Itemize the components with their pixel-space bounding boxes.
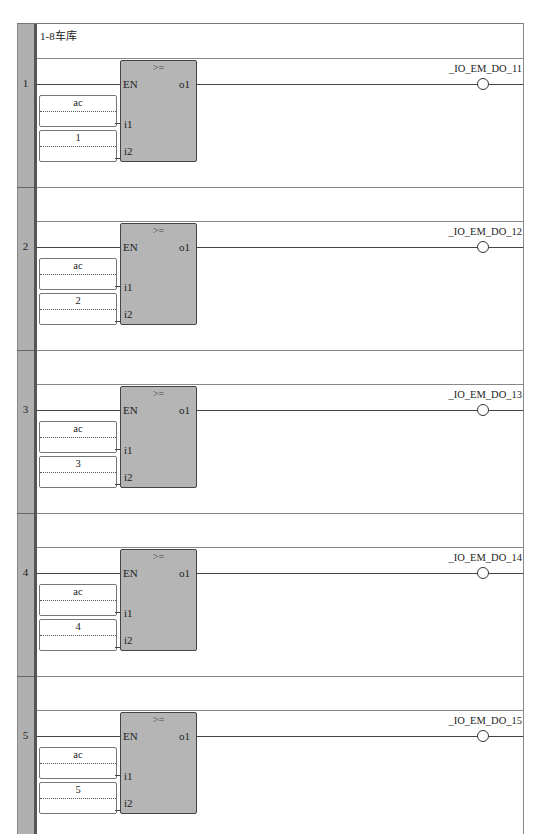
- coil-address: _IO_EM_DO_13: [449, 389, 523, 400]
- coil-wire: [489, 573, 523, 574]
- i1-connector: [115, 123, 121, 124]
- coil-address: _IO_EM_DO_12: [449, 226, 523, 237]
- block-operator: >=: [121, 714, 196, 725]
- en-wire: [37, 84, 120, 85]
- dotted-separator: [40, 763, 116, 764]
- pin-i2: i2: [124, 145, 133, 157]
- pin-i1: i1: [124, 770, 133, 782]
- dotted-separator: [40, 635, 116, 636]
- coil-wire: [489, 736, 523, 737]
- constant-box[interactable]: 5: [39, 782, 117, 814]
- compare-ge-block[interactable]: >= EN o1 i1 i2: [120, 223, 197, 325]
- variable-name: ac: [40, 749, 116, 760]
- pin-en: EN: [123, 78, 138, 90]
- i2-connector: [115, 321, 121, 322]
- pin-i1: i1: [124, 281, 133, 293]
- pin-i2: i2: [124, 308, 133, 320]
- rung-3[interactable]: 3 >= EN o1 i1 i2 ac 3 _IO_EM_DO_13: [0, 410, 542, 573]
- rung-number: 1: [17, 77, 34, 89]
- coil-address: _IO_EM_DO_11: [449, 63, 522, 74]
- rung-number: 4: [17, 566, 34, 578]
- input-variable-box[interactable]: ac: [39, 95, 117, 127]
- divider: [37, 710, 523, 711]
- rung-1[interactable]: 1 >= EN o1 i1 i2 ac 1 _IO_EM_DO_11: [0, 84, 542, 247]
- constant-box[interactable]: 1: [39, 130, 117, 162]
- divider: [37, 547, 523, 548]
- output-wire: [197, 410, 477, 411]
- output-coil-icon[interactable]: [477, 730, 489, 742]
- coil-address: _IO_EM_DO_14: [449, 552, 523, 563]
- output-coil-icon[interactable]: [477, 567, 489, 579]
- rung-number: 3: [17, 403, 34, 415]
- rung-number: 2: [17, 240, 34, 252]
- constant-box[interactable]: 3: [39, 456, 117, 488]
- pin-i2: i2: [124, 634, 133, 646]
- divider: [37, 384, 523, 385]
- constant-box[interactable]: 2: [39, 293, 117, 325]
- input-variable-box[interactable]: ac: [39, 421, 117, 453]
- pin-o1: o1: [179, 730, 190, 742]
- pin-o1: o1: [179, 567, 190, 579]
- dotted-separator: [40, 472, 116, 473]
- compare-ge-block[interactable]: >= EN o1 i1 i2: [120, 712, 197, 814]
- coil-address: _IO_EM_DO_15: [449, 715, 523, 726]
- rung-5[interactable]: 5 >= EN o1 i1 i2 ac 5 _IO_EM_DO_15: [0, 736, 542, 834]
- rung-4[interactable]: 4 >= EN o1 i1 i2 ac 4 _IO_EM_DO_14: [0, 573, 542, 736]
- pin-i2: i2: [124, 797, 133, 809]
- en-wire: [37, 247, 120, 248]
- network-comment[interactable]: 1-8车库: [40, 27, 77, 43]
- i1-connector: [115, 775, 121, 776]
- variable-name: ac: [40, 97, 116, 108]
- divider: [37, 58, 523, 59]
- variable-name: ac: [40, 260, 116, 271]
- dotted-separator: [40, 146, 116, 147]
- variable-name: ac: [40, 423, 116, 434]
- output-wire: [197, 573, 477, 574]
- en-wire: [37, 410, 120, 411]
- compare-ge-block[interactable]: >= EN o1 i1 i2: [120, 60, 197, 162]
- i2-connector: [115, 810, 121, 811]
- dotted-separator: [40, 798, 116, 799]
- input-variable-box[interactable]: ac: [39, 258, 117, 290]
- block-operator: >=: [121, 225, 196, 236]
- coil-wire: [489, 247, 523, 248]
- output-coil-icon[interactable]: [477, 241, 489, 253]
- dotted-separator: [40, 274, 116, 275]
- pin-i1: i1: [124, 118, 133, 130]
- constant-value: 1: [40, 132, 116, 143]
- output-coil-icon[interactable]: [477, 404, 489, 416]
- pin-o1: o1: [179, 241, 190, 253]
- compare-ge-block[interactable]: >= EN o1 i1 i2: [120, 549, 197, 651]
- dotted-separator: [40, 111, 116, 112]
- constant-value: 5: [40, 784, 116, 795]
- constant-box[interactable]: 4: [39, 619, 117, 651]
- pin-en: EN: [123, 730, 138, 742]
- frame-top-border: [17, 23, 524, 24]
- dotted-separator: [40, 600, 116, 601]
- block-operator: >=: [121, 551, 196, 562]
- divider: [37, 221, 523, 222]
- pin-en: EN: [123, 567, 138, 579]
- rung-2[interactable]: 2 >= EN o1 i1 i2 ac 2 _IO_EM_DO_12: [0, 247, 542, 410]
- input-variable-box[interactable]: ac: [39, 584, 117, 616]
- i2-connector: [115, 484, 121, 485]
- constant-value: 3: [40, 458, 116, 469]
- block-operator: >=: [121, 388, 196, 399]
- pin-i2: i2: [124, 471, 133, 483]
- i1-connector: [115, 612, 121, 613]
- input-variable-box[interactable]: ac: [39, 747, 117, 779]
- coil-wire: [489, 84, 523, 85]
- pin-en: EN: [123, 241, 138, 253]
- coil-wire: [489, 410, 523, 411]
- output-wire: [197, 84, 477, 85]
- output-coil-icon[interactable]: [477, 78, 489, 90]
- rung-number: 5: [17, 729, 34, 741]
- pin-o1: o1: [179, 78, 190, 90]
- compare-ge-block[interactable]: >= EN o1 i1 i2: [120, 386, 197, 488]
- pin-i1: i1: [124, 444, 133, 456]
- dotted-separator: [40, 309, 116, 310]
- variable-name: ac: [40, 586, 116, 597]
- i1-connector: [115, 449, 121, 450]
- pin-en: EN: [123, 404, 138, 416]
- output-wire: [197, 736, 477, 737]
